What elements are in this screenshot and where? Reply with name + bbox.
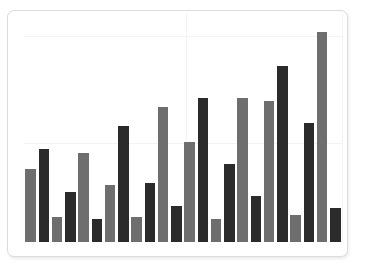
- bar-13[interactable]: [184, 142, 195, 242]
- bar-15[interactable]: [211, 219, 222, 242]
- chart-card: [7, 10, 348, 257]
- bar-16[interactable]: [224, 164, 235, 242]
- bar-18[interactable]: [251, 196, 262, 242]
- bar-20[interactable]: [277, 66, 288, 242]
- bar-19[interactable]: [264, 101, 275, 242]
- bar-23[interactable]: [317, 32, 328, 242]
- bar-24[interactable]: [330, 208, 341, 242]
- bar-5[interactable]: [78, 153, 89, 242]
- bar-4[interactable]: [65, 192, 76, 242]
- bar-3[interactable]: [52, 217, 63, 242]
- bar-1[interactable]: [25, 169, 36, 242]
- bar-9[interactable]: [131, 217, 142, 242]
- bar-2[interactable]: [39, 149, 50, 242]
- bar-6[interactable]: [92, 219, 103, 242]
- bar-series-group: [24, 14, 342, 242]
- bar-7[interactable]: [105, 185, 116, 242]
- screenshot-root: [0, 0, 365, 269]
- bar-8[interactable]: [118, 126, 129, 242]
- bar-12[interactable]: [171, 206, 182, 242]
- bar-21[interactable]: [290, 215, 301, 242]
- gridline-vertical-1: [342, 14, 343, 242]
- bar-10[interactable]: [145, 183, 156, 242]
- plot-area: [24, 14, 342, 242]
- bar-17[interactable]: [237, 98, 248, 242]
- bar-14[interactable]: [198, 98, 209, 242]
- bar-11[interactable]: [158, 107, 169, 242]
- bar-22[interactable]: [304, 123, 315, 242]
